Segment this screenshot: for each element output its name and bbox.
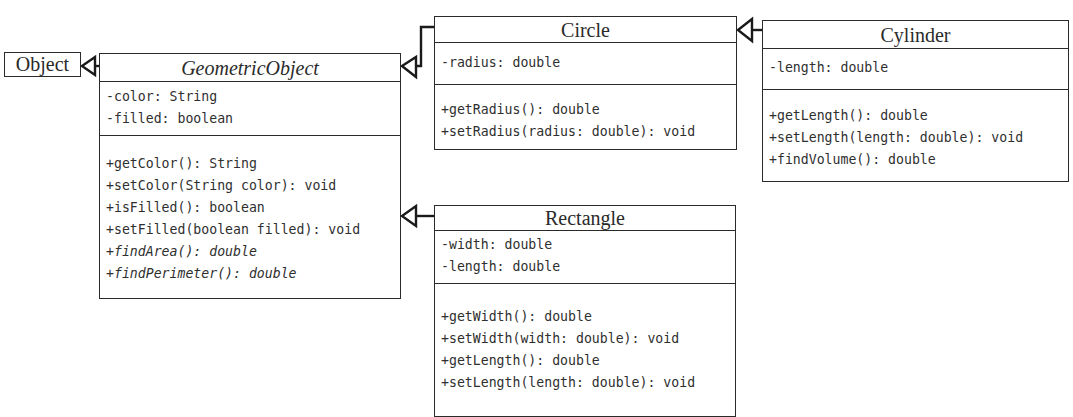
method: +getLength(): double: [441, 350, 735, 372]
method: +isFilled(): boolean: [106, 197, 400, 219]
method: +setLength(length: double): void: [441, 372, 735, 394]
class-geometricobject: GeometricObject -color: String -filled: …: [99, 53, 401, 299]
methods-section: +getWidth(): double +setWidth(width: dou…: [435, 284, 735, 394]
attributes-section: -radius: double: [435, 43, 736, 85]
generalization-arrow-icon: [402, 57, 416, 77]
class-name: Circle: [435, 17, 736, 43]
methods-section: +getLength(): double +setLength(length: …: [763, 90, 1068, 171]
generalization-arrow-icon: [738, 19, 752, 41]
class-circle: Circle -radius: double +getRadius(): dou…: [434, 16, 737, 150]
class-name: Object: [16, 53, 69, 76]
attribute: -radius: double: [441, 52, 736, 74]
methods-section: +getColor(): String +setColor(String col…: [100, 136, 400, 285]
methods-section: +getRadius(): double +setRadius(radius: …: [435, 85, 736, 143]
attribute: -length: double: [769, 57, 1068, 79]
method: +getColor(): String: [106, 153, 400, 175]
abstract-method: +findPerimeter(): double: [106, 263, 400, 285]
method: +findVolume(): double: [769, 149, 1068, 171]
method: +setFilled(boolean filled): void: [106, 219, 400, 241]
method: +getRadius(): double: [441, 99, 736, 121]
generalization-arrow-icon: [82, 57, 95, 75]
generalization-arrow-icon: [402, 206, 416, 226]
class-name: GeometricObject: [100, 54, 400, 82]
attribute: -length: double: [441, 256, 735, 278]
class-name: Cylinder: [763, 21, 1068, 49]
class-object: Object: [4, 52, 81, 77]
attributes-section: -color: String -filled: boolean: [100, 82, 400, 136]
method: +setLength(length: double): void: [769, 127, 1068, 149]
attributes-section: -length: double: [763, 49, 1068, 90]
attributes-section: -width: double -length: double: [435, 231, 735, 284]
method: +setRadius(radius: double): void: [441, 121, 736, 143]
attribute: -color: String: [106, 86, 400, 108]
method: +getLength(): double: [769, 105, 1068, 127]
class-rectangle: Rectangle -width: double -length: double…: [434, 205, 736, 417]
class-cylinder: Cylinder -length: double +getLength(): d…: [762, 20, 1069, 182]
method: +setWidth(width: double): void: [441, 328, 735, 350]
class-name: Rectangle: [435, 206, 735, 231]
abstract-method: +findArea(): double: [106, 241, 400, 263]
attribute: -filled: boolean: [106, 108, 400, 130]
method: +setColor(String color): void: [106, 175, 400, 197]
method: +getWidth(): double: [441, 306, 735, 328]
connector-circle-geometricobject: [416, 27, 434, 66]
attribute: -width: double: [441, 234, 735, 256]
